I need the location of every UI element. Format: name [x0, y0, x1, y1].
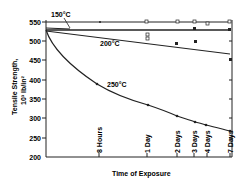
svg-text:10³ lb/in²: 10³ lb/in²	[20, 76, 27, 105]
y-tick-300: 300	[29, 115, 41, 122]
x-tick-1-day: 1 Day	[144, 134, 152, 153]
y-tick-350: 350	[29, 96, 41, 103]
x-axis-title: Time of Exposure	[112, 170, 171, 178]
y-tick-400: 400	[29, 77, 41, 84]
svg-text:Tensile Strength,: Tensile Strength,	[11, 59, 19, 115]
x-tick-3-days: 3 Days	[191, 130, 199, 153]
y-tick-labels: 550 500 450 400 350 300 250 200	[29, 19, 41, 161]
series-250c: 250°C	[46, 30, 231, 132]
y-tick-450: 450	[29, 57, 41, 64]
label-leader-150c	[64, 18, 70, 28]
series-label-250c: 250°C	[107, 81, 127, 88]
tensile-strength-chart: 550 500 450 400 350 300 250 200 Tensile …	[0, 0, 249, 181]
series-150c: 150°C	[46, 11, 231, 31]
y-tick-200: 200	[29, 154, 41, 161]
series-label-150c: 150°C	[51, 11, 71, 18]
y-ticks	[42, 22, 232, 138]
series-label-200c: 200°C	[100, 40, 120, 47]
y-tick-250: 250	[29, 135, 41, 142]
series-200c: 200°C	[46, 31, 232, 61]
y-tick-500: 500	[29, 38, 41, 45]
x-tick-8-hours: 8 Hours	[96, 127, 103, 153]
x-tick-2-days: 2 Days	[174, 130, 182, 153]
x-tick-7-days: 7 Days	[227, 130, 235, 153]
x-tick-4-days: 4 Days	[204, 130, 212, 153]
y-axis-title: Tensile Strength, 10³ lb/in²	[11, 59, 27, 115]
x-tick-labels: 8 Hours 1 Day 2 Days 3 Days 4 Days 7 Day…	[96, 127, 235, 153]
y-tick-550: 550	[29, 19, 41, 26]
